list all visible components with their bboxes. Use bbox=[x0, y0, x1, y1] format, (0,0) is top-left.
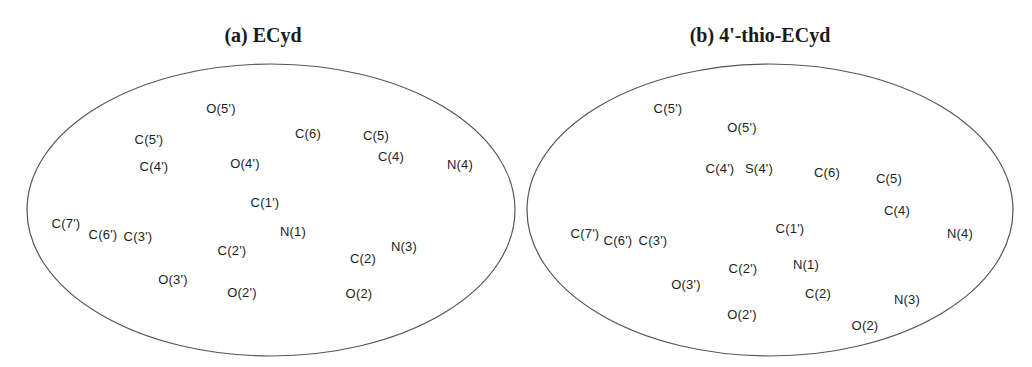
atom-label: O(3') bbox=[158, 273, 187, 286]
panel-b-title: (b) 4'-thio-ECyd bbox=[690, 24, 831, 47]
atom-label: C(6') bbox=[604, 234, 633, 247]
atom-label: N(4) bbox=[947, 227, 973, 240]
atom-label: N(4) bbox=[447, 158, 473, 171]
atom-label: N(1) bbox=[280, 225, 306, 238]
atom-label: O(2) bbox=[346, 287, 373, 300]
atom-label: N(3) bbox=[391, 240, 417, 253]
atom-label: C(4) bbox=[884, 204, 910, 217]
atom-label: C(6) bbox=[295, 127, 321, 140]
atom-label: C(2') bbox=[729, 262, 758, 275]
atom-label: O(2') bbox=[227, 286, 256, 299]
atom-label: C(2') bbox=[218, 244, 247, 257]
atom-label: O(4') bbox=[230, 157, 259, 170]
atom-label: C(6) bbox=[814, 166, 840, 179]
atom-label: C(1') bbox=[776, 222, 805, 235]
atom-label: C(4') bbox=[140, 160, 169, 173]
atom-label: S(4') bbox=[745, 162, 773, 175]
atom-label: O(3') bbox=[671, 278, 700, 291]
atom-label: C(5') bbox=[654, 102, 683, 115]
atom-label: C(3') bbox=[124, 230, 153, 243]
atom-label: C(6') bbox=[89, 228, 118, 241]
atom-label: C(7') bbox=[52, 217, 81, 230]
atom-label: C(5') bbox=[135, 133, 164, 146]
panel-a-title: (a) ECyd bbox=[224, 24, 301, 47]
atom-label: C(3') bbox=[639, 234, 668, 247]
atom-label: O(5') bbox=[206, 102, 235, 115]
atom-label: C(1') bbox=[251, 196, 280, 209]
atom-label: C(2) bbox=[805, 287, 831, 300]
atom-label: N(1) bbox=[793, 258, 819, 271]
atom-label: C(7') bbox=[571, 227, 600, 240]
atom-label: C(2) bbox=[350, 252, 376, 265]
atom-label: C(5) bbox=[876, 172, 902, 185]
atom-label: O(5') bbox=[727, 121, 756, 134]
atom-label: C(5) bbox=[363, 129, 389, 142]
panel-a-ellipse bbox=[27, 64, 515, 356]
atom-label: C(4') bbox=[706, 162, 735, 175]
atom-label: N(3) bbox=[894, 293, 920, 306]
atom-layout-figure: (a) ECyd (b) 4'-thio-ECyd O(5')C(5')C(6)… bbox=[0, 0, 1032, 367]
atom-label: C(4) bbox=[378, 150, 404, 163]
atom-label: O(2) bbox=[852, 319, 879, 332]
panel-b-ellipse bbox=[527, 64, 1013, 356]
atom-label: O(2') bbox=[727, 308, 756, 321]
